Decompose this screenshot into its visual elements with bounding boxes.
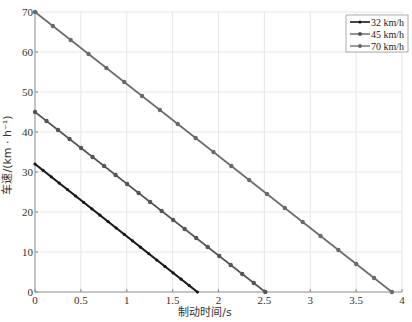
data-point-marker [247, 178, 251, 182]
y-tick-label: 30 [22, 166, 34, 178]
data-point-marker [336, 248, 340, 252]
data-point-marker [66, 188, 69, 191]
data-point-marker [194, 236, 198, 240]
data-point-marker [102, 164, 106, 168]
data-point-marker [33, 110, 37, 114]
data-point-marker [51, 24, 55, 28]
x-tick-label: 2.5 [258, 294, 272, 306]
y-tick-label: 60 [22, 46, 34, 58]
x-tick-label: 1.5 [166, 294, 180, 306]
data-point-marker [229, 164, 233, 168]
y-tick-label: 10 [22, 246, 34, 258]
y-tick-label: 20 [22, 206, 34, 218]
data-point-marker [176, 122, 180, 126]
data-point-marker [240, 272, 244, 276]
y-axis-title: 车速/(km · h⁻¹) [0, 115, 14, 194]
y-tick-labels: 010203040506070 [22, 6, 38, 298]
legend-label-32: 32 km/h [371, 17, 404, 28]
x-tick-label: 0 [32, 294, 38, 306]
y-tick-label: 70 [22, 6, 34, 18]
data-point-marker [90, 207, 93, 210]
data-point-marker [125, 182, 129, 186]
data-point-marker [74, 194, 77, 197]
data-point-marker [217, 254, 221, 258]
data-point-marker [139, 246, 142, 249]
data-point-marker [265, 192, 269, 196]
data-point-marker [50, 175, 53, 178]
data-point-marker [372, 276, 376, 280]
data-point-marker [158, 108, 162, 112]
data-point-marker [82, 201, 85, 204]
data-point-marker [122, 80, 126, 84]
data-point-marker [354, 262, 358, 266]
data-point-marker [193, 136, 197, 140]
data-point-marker [136, 191, 140, 195]
data-point-marker [98, 214, 101, 217]
data-point-marker [33, 10, 37, 14]
data-point-marker [58, 182, 61, 185]
legend-marker-icon [358, 44, 362, 48]
data-point-marker [206, 245, 210, 249]
data-point-marker [252, 281, 256, 285]
data-point-marker [113, 173, 117, 177]
y-tick-label: 50 [22, 86, 34, 98]
x-tick-label: 4 [399, 294, 405, 306]
data-point-marker [171, 271, 174, 274]
data-point-marker [131, 239, 134, 242]
braking-speed-chart: 00.511.522.533.54 010203040506070 制动时间/s… [0, 0, 412, 322]
legend-marker-icon [358, 32, 362, 36]
data-point-marker [163, 265, 166, 268]
data-point-marker [318, 234, 322, 238]
data-point-marker [390, 290, 394, 294]
legend-label-45: 45 km/h [371, 29, 404, 40]
data-point-marker [188, 284, 191, 287]
data-point-marker [147, 252, 150, 255]
data-point-marker [67, 137, 71, 141]
series-45kmh [33, 110, 268, 294]
data-point-marker [229, 263, 233, 267]
series-32kmh [33, 162, 199, 293]
data-point-marker [140, 94, 144, 98]
x-axis-title: 制动时间/s [178, 306, 232, 319]
data-point-marker [148, 200, 152, 204]
data-point-marker [171, 218, 175, 222]
data-point-marker [159, 209, 163, 213]
data-point-marker [42, 169, 45, 172]
data-point-marker [90, 155, 94, 159]
data-point-marker [79, 146, 83, 150]
data-point-marker [86, 52, 90, 56]
data-point-marker [33, 162, 36, 165]
x-tick-label: 3 [308, 294, 314, 306]
y-tick-label: 40 [22, 126, 34, 138]
data-point-marker [68, 38, 72, 42]
legend-label-70: 70 km/h [371, 41, 404, 52]
data-point-marker [106, 220, 109, 223]
data-point-marker [56, 128, 60, 132]
x-tick-label: 0.5 [74, 294, 88, 306]
data-point-marker [155, 258, 158, 261]
data-point-marker [196, 290, 199, 293]
data-point-marker [263, 290, 267, 294]
data-point-marker [123, 233, 126, 236]
x-tick-label: 1 [124, 294, 130, 306]
data-point-marker [283, 206, 287, 210]
data-point-marker [44, 119, 48, 123]
x-tick-label: 3.5 [349, 294, 363, 306]
data-point-marker [115, 226, 118, 229]
data-point-marker [182, 227, 186, 231]
x-tick-label: 2 [216, 294, 222, 306]
data-point-marker [211, 150, 215, 154]
y-tick-label: 0 [28, 286, 34, 298]
legend: 32 km/h 45 km/h 70 km/h [346, 15, 408, 52]
data-point-marker [180, 278, 183, 281]
data-point-marker [300, 220, 304, 224]
data-point-marker [104, 66, 108, 70]
legend-marker-icon [358, 20, 361, 23]
